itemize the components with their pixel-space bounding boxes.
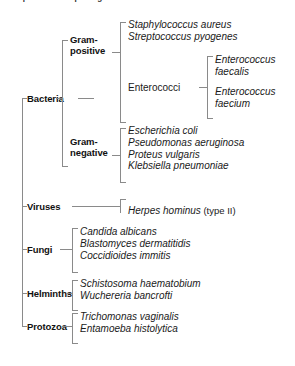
species-item: Trichomonas vaginalis xyxy=(80,311,179,323)
species-item: Staphylococcus aureus xyxy=(128,19,238,31)
species-item: Escherichia coli xyxy=(128,125,244,137)
gram-positive-line1: Gram- xyxy=(70,34,97,45)
species-list-protozoa: Trichomonas vaginalis Entamoeba histolyt… xyxy=(80,311,179,335)
fungi-bracket-top-tick xyxy=(72,228,78,229)
protozoa-bracket-bottom-tick xyxy=(72,343,78,344)
species-list-fungi: Candida albicans Blastomyces dermatitidi… xyxy=(80,226,191,261)
enterococci-bracket-top-tick xyxy=(207,56,213,57)
gram-negative-line1: Gram- xyxy=(70,136,97,147)
connector-enterococci-stem xyxy=(199,87,207,88)
gram-positive-bracket-bottom-tick xyxy=(120,122,126,123)
species-item-enterococcus-faecalis: Enterococcus faecalis xyxy=(215,54,289,78)
enterococci-bracket-bottom-tick xyxy=(207,118,213,119)
species-item: Blastomyces dermatitidis xyxy=(80,238,191,250)
kingdom-label-viruses: Viruses xyxy=(27,201,60,212)
species-item-enterococcus-faecium: Enterococcus faecium xyxy=(215,86,289,110)
connector-fungi-stem xyxy=(60,249,72,250)
group-label-gram-positive: Gram-positive xyxy=(70,35,116,57)
connector-protozoa-stem xyxy=(62,326,72,327)
species-item: Pseudomonas aeruginosa xyxy=(128,137,244,149)
connector-gram-negative-stem xyxy=(112,155,120,156)
species-list-helminths: Schistosoma haematobium Wuchereria bancr… xyxy=(80,278,201,302)
gram-negative-bracket-vline xyxy=(120,128,121,182)
helminths-bracket-bottom-tick xyxy=(72,310,78,311)
kingdom-label-protozoa: Protozoa xyxy=(27,321,67,332)
gram-positive-line2: positive xyxy=(70,45,105,56)
root-spine-vline xyxy=(22,98,23,326)
enterococci-bracket-vline xyxy=(207,56,208,118)
species-item: Schistosoma haematobium xyxy=(80,278,201,290)
connector-bacteria-to-gram xyxy=(78,98,94,99)
gram-positive-bracket-top-tick xyxy=(120,22,126,23)
species-item: Candida albicans xyxy=(80,226,191,238)
gram-negative-bracket-bottom-tick xyxy=(120,182,126,183)
protozoa-bracket-vline xyxy=(72,313,73,343)
gram-negative-bracket-top-tick xyxy=(120,128,126,129)
kingdom-label-fungi: Fungi xyxy=(27,244,52,255)
helminths-bracket-top-tick xyxy=(72,280,78,281)
species-item: Wuchereria bancrofti xyxy=(80,290,201,302)
species-row-herpes: Herpes hominus (type II) xyxy=(128,200,236,219)
species-item: Streptococcus pyogenes xyxy=(128,31,238,43)
gram-negative-line2: negative xyxy=(70,147,108,158)
protozoa-bracket-top-tick xyxy=(72,313,78,314)
species-item: Entamoeba histolytica xyxy=(80,323,179,335)
connector-viruses xyxy=(72,206,120,207)
species-list-gram-negative: Escherichia coli Pseudomonas aeruginosa … xyxy=(128,125,244,172)
viruses-bracket-top-tick xyxy=(120,199,126,200)
species-item-herpes-hominus: Herpes hominus xyxy=(128,205,201,216)
helminths-bracket-vline xyxy=(72,280,73,310)
taxonomy-tree-figure: Representative pathogens Bacteria Viruse… xyxy=(0,0,295,366)
gram-bracket-top-tick xyxy=(62,40,68,41)
fungi-bracket-bottom-tick xyxy=(72,272,78,273)
species-item: Proteus vulgaris xyxy=(128,149,244,161)
gram-bracket-bottom-tick xyxy=(62,166,68,167)
clipped-caption-fragment: Representative pathogens xyxy=(12,0,152,3)
species-list-gram-positive: Staphylococcus aureus Streptococcus pyog… xyxy=(128,19,238,43)
subgroup-label-enterococci: Enterococci xyxy=(128,82,180,94)
fungi-bracket-vline xyxy=(72,228,73,272)
gram-positive-bracket-vline xyxy=(120,22,121,122)
viruses-bracket-vline xyxy=(120,199,121,213)
species-item: Klebsiella pneumoniae xyxy=(128,160,244,172)
species-suffix-herpes-type: (type II) xyxy=(201,205,236,216)
gram-bracket-vline xyxy=(62,40,63,166)
connector-gram-positive-stem xyxy=(112,52,120,53)
group-label-gram-negative: Gram-negative xyxy=(70,137,116,159)
species-item: Coccidioides immitis xyxy=(80,250,191,262)
